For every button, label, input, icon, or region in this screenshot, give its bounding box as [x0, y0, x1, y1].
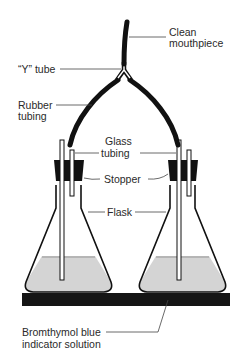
label-bromthymol-line1: Bromthymol blue: [22, 327, 101, 338]
label-stopper: Stopper: [104, 174, 141, 185]
label-flask: Flask: [107, 207, 132, 218]
label-rubber-tubing-line2: tubing: [18, 111, 47, 122]
label-glass-tubing-line1: Glass: [105, 136, 132, 147]
rubber-tubing-right: [130, 80, 178, 145]
diagram-canvas: Clean mouthpiece “Y” tube Rubber tubing …: [0, 0, 242, 353]
right-flask: [139, 140, 225, 292]
label-bromthymol-line2: indicator solution: [22, 339, 101, 350]
label-glass-tubing-line2: tubing: [101, 148, 130, 159]
base-platform: [22, 293, 230, 306]
mouthpiece-tube: [124, 22, 127, 64]
label-y-tube: “Y” tube: [18, 64, 55, 75]
left-flask: [25, 140, 111, 292]
label-clean-mouthpiece-line2: mouthpiece: [169, 38, 223, 49]
